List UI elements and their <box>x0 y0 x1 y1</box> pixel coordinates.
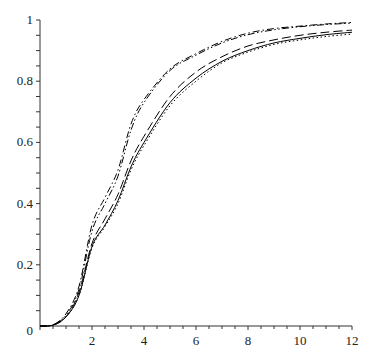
x-tick-label: 4 <box>141 333 148 348</box>
series-line-dash-dot <box>40 22 352 326</box>
y-tick-label: 1 <box>27 12 34 27</box>
y-tick-label: 0 <box>27 323 34 338</box>
series-line-dash-dot-dot <box>40 23 352 326</box>
y-tick-label: 0.2 <box>17 257 33 272</box>
x-tick-label: 8 <box>245 333 252 348</box>
axes <box>40 20 352 330</box>
x-tick-label: 12 <box>346 333 359 348</box>
y-tick-label: 0.4 <box>17 196 34 211</box>
series-group <box>40 22 352 326</box>
series-line-solid <box>40 32 352 326</box>
y-ticks: 00.20.40.60.81 <box>17 12 40 338</box>
y-tick-label: 0.6 <box>17 134 34 149</box>
x-ticks: 24681012 <box>53 326 359 348</box>
y-tick-label: 0.8 <box>17 73 33 88</box>
line-chart: 24681012 00.20.40.60.81 <box>0 0 371 357</box>
x-tick-label: 6 <box>193 333 200 348</box>
x-tick-label: 10 <box>294 333 307 348</box>
series-line-dashed <box>40 30 352 326</box>
x-tick-label: 2 <box>89 333 96 348</box>
